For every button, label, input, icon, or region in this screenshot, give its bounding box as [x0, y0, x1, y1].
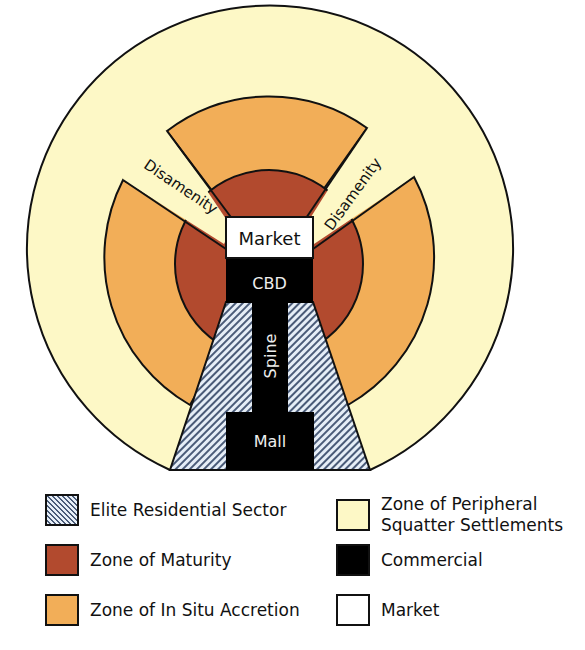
peripheral-swatch — [336, 499, 370, 531]
legend-item-elite: Elite Residential Sector — [45, 494, 286, 526]
legend-item-accretion: Zone of In Situ Accretion — [45, 594, 300, 626]
legend-label: Commercial — [381, 550, 483, 571]
elite-swatch — [45, 494, 79, 526]
market-swatch — [336, 594, 370, 626]
spine-label: Spine — [261, 334, 280, 379]
legend-item-maturity: Zone of Maturity — [45, 544, 231, 576]
mall-label: Mall — [254, 432, 287, 451]
legend-label: Market — [381, 600, 439, 621]
legend-label: Zone of In Situ Accretion — [90, 600, 300, 621]
legend-label: Zone of Maturity — [90, 550, 231, 571]
legend-label: Zone of Peripheral Squatter Settlements — [381, 494, 563, 536]
maturity-swatch — [45, 544, 79, 576]
commercial-swatch — [336, 544, 370, 576]
legend-label: Elite Residential Sector — [90, 500, 286, 521]
accretion-swatch — [45, 594, 79, 626]
market-label: Market — [239, 228, 301, 249]
legend-item-market: Market — [336, 594, 439, 626]
cbd-label: CBD — [252, 274, 286, 293]
legend-item-peripheral: Zone of Peripheral Squatter Settlements — [336, 494, 563, 536]
legend-item-commercial: Commercial — [336, 544, 483, 576]
